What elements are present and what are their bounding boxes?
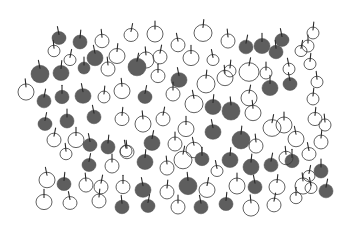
apple-pattern-illustration <box>0 0 352 225</box>
